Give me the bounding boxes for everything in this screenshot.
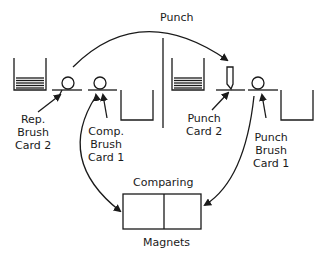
punch-brush-roller bbox=[248, 77, 278, 90]
right-stacker bbox=[281, 90, 313, 120]
rep-label-arrow bbox=[38, 95, 60, 112]
label-punch-card-2: Punch Card 2 bbox=[186, 112, 222, 138]
comp-brush-roller bbox=[88, 77, 117, 90]
comparing-magnets-box bbox=[123, 194, 201, 229]
label-magnets: Magnets bbox=[143, 236, 190, 249]
label-comp-brush-card-1: Comp. Brush Card 1 bbox=[88, 125, 124, 164]
label-punch-brush-card-1: Punch Brush Card 1 bbox=[253, 131, 289, 170]
left-stacker bbox=[121, 90, 153, 120]
punch-die bbox=[216, 67, 245, 90]
left-hopper bbox=[14, 58, 46, 90]
punch-brush-label-arrow bbox=[262, 95, 266, 118]
comp-label-arrow bbox=[103, 95, 107, 118]
label-comparing: Comparing bbox=[133, 176, 193, 189]
right-hopper bbox=[172, 58, 204, 90]
rep-brush-roller bbox=[52, 77, 82, 98]
label-punch: Punch bbox=[160, 11, 193, 24]
comp-from-magnets-head bbox=[96, 95, 97, 100]
diagram: Punch Rep. Brush Card 2 Comp. Brush Card… bbox=[0, 0, 327, 257]
punch-card2-label-arrow bbox=[212, 93, 228, 110]
label-rep-brush-card-2: Rep. Brush Card 2 bbox=[15, 113, 51, 152]
